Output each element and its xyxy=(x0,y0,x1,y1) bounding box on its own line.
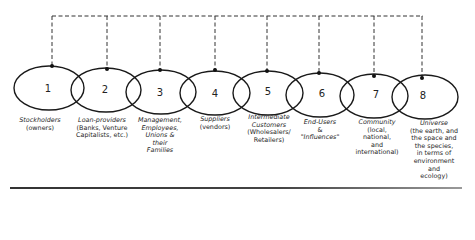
label-universe: Universe (the earth, and the space and t… xyxy=(404,120,464,181)
label-loan-providers: Loan-providers (Banks, Venture Capitalis… xyxy=(70,117,134,140)
connection-dots xyxy=(50,64,424,80)
label-stockholders: Stockholders (owners) xyxy=(14,117,66,132)
label-intermediate-customers: Intermediate Customers (Wholesalers/ Ret… xyxy=(240,114,298,144)
bottom-rule-divider xyxy=(10,187,462,189)
label-title: Families xyxy=(130,147,190,155)
number-5: 5 xyxy=(265,86,271,97)
label-management: Management, Employees, Unions & their Fa… xyxy=(130,117,190,155)
label-desc: (owners) xyxy=(14,125,66,133)
label-end-users: End-Users & "Influences" xyxy=(291,119,349,142)
stakeholder-ellipses xyxy=(14,66,458,119)
number-7: 7 xyxy=(373,89,379,100)
number-1: 1 xyxy=(45,83,51,94)
label-suppliers: Suppliers (vendors) xyxy=(190,116,240,131)
number-3: 3 xyxy=(157,87,163,98)
label-community: Community (local, national, and internat… xyxy=(350,119,404,157)
number-6: 6 xyxy=(319,88,325,99)
label-desc: ecology) xyxy=(404,173,464,181)
number-8: 8 xyxy=(420,90,426,101)
label-desc: (vendors) xyxy=(190,124,240,132)
label-desc: "Influences" xyxy=(291,134,349,142)
label-desc: Retailers) xyxy=(240,137,298,145)
label-desc: Capitalists, etc.) xyxy=(70,132,134,140)
label-desc: international) xyxy=(350,149,404,157)
number-2: 2 xyxy=(102,84,108,95)
number-4: 4 xyxy=(212,88,218,99)
